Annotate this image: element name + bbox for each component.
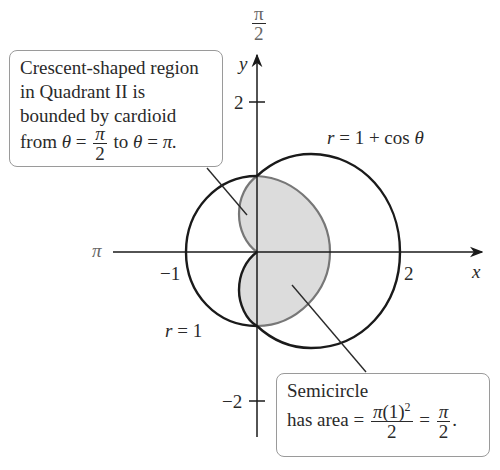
x-tick-label-neg1: −1 [160,264,180,283]
y-tick-label-2: 2 [234,93,244,112]
y-axis-label: y [239,54,247,73]
semicircle-callout: Semicircle has area = π(1)2 2 = π 2 . [276,373,490,457]
y-tick-label-neg2: −2 [222,392,242,411]
semicircle-callout-line-1: Semicircle [287,379,489,403]
circle-equation-label: r = 1 [165,321,202,340]
crescent-callout-line-4: from θ = π 2 to θ = π. [20,124,222,163]
shaded-region [239,176,330,326]
x-axis-label: x [472,262,480,281]
crescent-callout-line-2: in Quadrant II is [20,80,222,104]
crescent-callout: Crescent-shaped region in Quadrant II is… [9,50,223,167]
semicircle-callout-line-2: has area = π(1)2 2 = π 2 . [287,401,489,441]
crescent-callout-line-1: Crescent-shaped region [20,56,222,80]
cardioid-equation-label: r = 1 + cos θ [327,128,424,147]
polar-angle-label-left: π [92,241,102,260]
x-tick-label-2: 2 [404,264,414,283]
semicircle-leader-line [292,285,366,372]
polar-angle-label-top: π 2 [250,4,268,43]
